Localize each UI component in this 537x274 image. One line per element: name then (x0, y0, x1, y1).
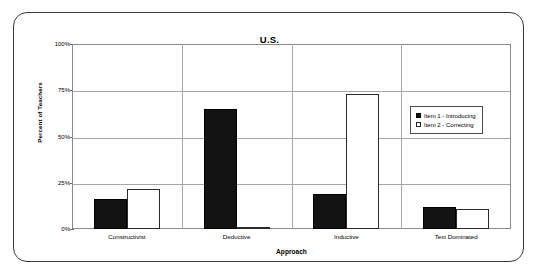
bar-constructivist-series-1 (94, 199, 127, 229)
chart-legend: Item 1 - Introducing Item 2 - Correcting (410, 106, 483, 134)
bar-deductive-series-1 (204, 109, 237, 229)
legend-swatch-filled-black-square-icon (416, 113, 421, 118)
bar-constructivist-series-2 (127, 189, 160, 229)
y-axis-tick-label: 100% (36, 41, 70, 47)
legend-item: Item 2 - Correcting (416, 120, 476, 129)
x-axis-tick-label: Text Dominated (435, 233, 478, 240)
legend-swatch-open-white-square-icon (416, 122, 421, 127)
x-axis-tick-labels: ConstructivistDeductiveInductiveText Dom… (72, 233, 511, 247)
y-axis-tick-label: 50% (36, 134, 70, 140)
x-axis-tick-label: Deductive (223, 233, 251, 240)
bars-layer (72, 44, 511, 229)
y-axis-tick-mark (70, 229, 74, 230)
y-axis-tick-label: 75% (36, 87, 70, 93)
bar-inductive-series-1 (313, 194, 346, 229)
legend-item-label: Item 2 - Correcting (424, 122, 474, 128)
chart-outer-frame: U.S. Percent of Teachers 0%25%50%75%100%… (13, 12, 524, 262)
x-axis-tick-label: Constructivist (108, 233, 145, 240)
category-separator (182, 44, 183, 229)
category-separator (401, 44, 402, 229)
x-axis-title: Approach (72, 248, 511, 255)
x-axis-tick-label: Inductive (334, 233, 359, 240)
category-separator (292, 44, 293, 229)
y-axis-tick-label: 0% (36, 226, 70, 232)
bar-text-dominated-series-1 (423, 207, 456, 229)
legend-item-label: Item 1 - Introducing (424, 113, 476, 119)
legend-item: Item 1 - Introducing (416, 111, 476, 120)
bar-deductive-series-2 (237, 227, 270, 229)
y-axis-tick-label: 25% (36, 180, 70, 186)
bar-inductive-series-2 (346, 94, 379, 229)
y-axis-ticks: 0%25%50%75%100% (30, 44, 70, 229)
chart-figure: U.S. Percent of Teachers 0%25%50%75%100%… (0, 0, 537, 274)
bar-text-dominated-series-2 (456, 209, 489, 229)
